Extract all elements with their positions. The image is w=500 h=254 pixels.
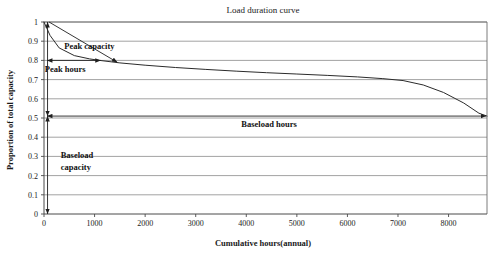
y-tick-label: 0.2: [28, 172, 38, 181]
x-tick-label: 0: [42, 219, 46, 228]
y-tick-label: 0.7: [28, 76, 38, 85]
y-tick-label: 0.3: [28, 152, 38, 161]
baseload-capacity-label-line-1: Baseload: [61, 150, 94, 160]
baseload-capacity-label-line-2: capacity: [61, 162, 92, 172]
x-tick-label: 6000: [339, 219, 355, 228]
y-tick-label: 0.8: [28, 56, 38, 65]
peak-capacity-label: Peak capacity: [64, 41, 115, 51]
y-tick-label: 0.6: [28, 95, 38, 104]
x-tick-label: 5000: [289, 219, 305, 228]
x-tick-label: 3000: [188, 219, 204, 228]
x-tick-label: 8000: [441, 219, 457, 228]
x-tick-label: 4000: [238, 219, 254, 228]
x-tick-label: 2000: [137, 219, 153, 228]
x-tick-label: 7000: [390, 219, 406, 228]
peak-hours-label: Peak hours: [45, 64, 87, 74]
y-tick-label: 0: [34, 210, 38, 219]
y-tick-label: 1: [34, 18, 38, 27]
x-tick-label: 1000: [87, 219, 103, 228]
chart-title: Load duration curve: [227, 5, 300, 15]
baseload-hours-label: Baseload hours: [241, 119, 297, 129]
y-tick-label: 0.5: [28, 114, 38, 123]
chart-canvas: Load duration curve 00.10.20.30.40.50.60…: [0, 0, 500, 254]
y-tick-label: 0.1: [28, 191, 38, 200]
y-tick-label: 0.9: [28, 37, 38, 46]
x-axis-label: Cumulative hours(annual): [215, 238, 311, 248]
load-duration-curve-chart: Load duration curve 00.10.20.30.40.50.60…: [0, 0, 500, 254]
y-axis-label: Proportion of total capacity: [5, 69, 15, 170]
y-tick-label: 0.4: [28, 133, 38, 142]
